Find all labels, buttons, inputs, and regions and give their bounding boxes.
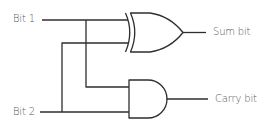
output-label-sum: Sum bit <box>213 26 250 38</box>
and-gate <box>129 80 167 118</box>
half-adder-diagram <box>0 0 275 124</box>
and-gate-body <box>129 80 167 118</box>
bit2-branch-to-xor <box>62 43 128 112</box>
xor-gate-body <box>131 13 184 52</box>
xor-gate-back-curve <box>126 13 130 52</box>
xor-gate <box>126 13 184 52</box>
bit1-branch-to-and <box>86 20 129 87</box>
input-label-bit1: Bit 1 <box>13 13 35 25</box>
output-label-carry: Carry bit <box>215 93 257 105</box>
input-label-bit2: Bit 2 <box>13 106 35 118</box>
